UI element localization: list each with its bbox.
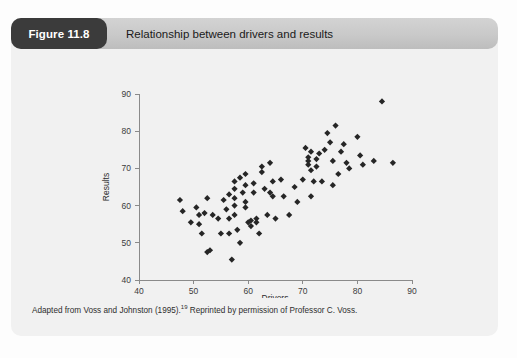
data-point-marker <box>231 212 237 218</box>
figure-title: Relationship between drivers and results <box>126 28 333 40</box>
data-point-marker <box>199 230 205 236</box>
data-point-marker <box>313 156 319 162</box>
data-point-marker <box>242 182 248 188</box>
caption-superscript: 19 <box>181 304 188 310</box>
data-point-marker <box>226 230 232 236</box>
x-tick-label: 80 <box>353 286 363 296</box>
data-point-marker <box>270 178 276 184</box>
y-tick-label: 80 <box>122 126 132 136</box>
data-point-marker <box>218 230 224 236</box>
y-tick-label: 50 <box>122 238 132 248</box>
data-point-marker <box>226 216 232 222</box>
data-point-marker <box>292 184 298 190</box>
data-point-marker <box>343 160 349 166</box>
data-point-marker <box>332 123 338 129</box>
y-tick-label: 60 <box>122 201 132 211</box>
data-point-marker <box>281 193 287 199</box>
figure-header: Figure 11.8 Relationship between drivers… <box>11 18 498 49</box>
data-point-marker <box>242 204 248 210</box>
x-axis-title: Drivers <box>262 293 289 298</box>
data-point-marker <box>231 195 237 201</box>
data-point-marker <box>308 167 314 173</box>
data-point-marker <box>229 256 235 262</box>
data-point-marker <box>330 182 336 188</box>
data-point-marker <box>226 191 232 197</box>
x-tick-label: 60 <box>243 286 253 296</box>
data-point-marker <box>305 162 311 168</box>
data-point-marker <box>278 176 284 182</box>
data-point-marker <box>300 176 306 182</box>
data-point-marker <box>272 216 278 222</box>
data-point-marker <box>330 158 336 164</box>
data-point-marker <box>237 240 243 246</box>
data-point-marker <box>338 149 344 155</box>
data-point-marker <box>256 230 262 236</box>
data-point-marker <box>193 204 199 210</box>
data-point-marker <box>240 189 246 195</box>
data-point-marker <box>204 195 210 201</box>
data-point-marker <box>259 169 265 175</box>
data-point-marker <box>371 158 377 164</box>
figure-number-tab: Figure 11.8 <box>11 18 107 49</box>
data-markers-group <box>177 98 396 262</box>
y-axis-title: Results <box>101 173 111 201</box>
data-point-marker <box>327 139 333 145</box>
data-point-marker <box>223 206 229 212</box>
data-point-marker <box>360 162 366 168</box>
figure-caption: Adapted from Voss and Johnston (1995).19… <box>32 304 482 316</box>
caption-text-before: Adapted from Voss and Johnston (1995). <box>32 306 181 315</box>
data-point-marker <box>231 186 237 192</box>
x-tick-label: 70 <box>298 286 308 296</box>
data-point-marker <box>335 171 341 177</box>
x-tick-label: 40 <box>134 286 144 296</box>
data-point-marker <box>324 130 330 136</box>
data-point-marker <box>311 178 317 184</box>
data-point-marker <box>188 219 194 225</box>
axes-group <box>139 94 412 280</box>
data-point-marker <box>346 165 352 171</box>
data-point-marker <box>196 221 202 227</box>
plot-svg: 405060708090 405060708090 Results Driver… <box>11 49 498 298</box>
figure-card: Figure 11.8 Relationship between drivers… <box>11 18 498 336</box>
scatter-plot: 405060708090 405060708090 Results Driver… <box>11 49 498 298</box>
data-point-marker <box>390 160 396 166</box>
data-point-marker <box>313 163 319 169</box>
data-point-marker <box>242 171 248 177</box>
data-point-marker <box>215 216 221 222</box>
data-point-marker <box>180 208 186 214</box>
data-point-marker <box>210 212 216 218</box>
figure-root: Figure 11.8 Relationship between drivers… <box>0 0 517 358</box>
data-point-marker <box>177 197 183 203</box>
y-ticks-group: 405060708090 <box>122 89 139 285</box>
data-point-marker <box>379 98 385 104</box>
data-point-marker <box>196 212 202 218</box>
data-point-marker <box>308 193 314 199</box>
data-point-marker <box>354 134 360 140</box>
data-point-marker <box>341 141 347 147</box>
data-point-marker <box>231 203 237 209</box>
data-point-marker <box>234 227 240 233</box>
data-point-marker <box>242 199 248 205</box>
data-point-marker <box>231 178 237 184</box>
data-point-marker <box>253 219 259 225</box>
y-tick-label: 40 <box>122 275 132 285</box>
data-point-marker <box>319 178 325 184</box>
data-point-marker <box>251 189 257 195</box>
data-point-marker <box>259 163 265 169</box>
data-point-marker <box>267 160 273 166</box>
data-point-marker <box>316 150 322 156</box>
y-tick-label: 90 <box>122 89 132 99</box>
data-point-marker <box>201 210 207 216</box>
y-tick-label: 70 <box>122 163 132 173</box>
data-point-marker <box>237 175 243 181</box>
data-point-marker <box>357 152 363 158</box>
data-point-marker <box>294 199 300 205</box>
figure-number-label: Figure 11.8 <box>28 28 89 40</box>
data-point-marker <box>221 197 227 203</box>
data-point-marker <box>261 186 267 192</box>
x-tick-label: 50 <box>189 286 199 296</box>
data-point-marker <box>308 149 314 155</box>
data-point-marker <box>286 212 292 218</box>
data-point-marker <box>302 145 308 151</box>
data-point-marker <box>251 180 257 186</box>
